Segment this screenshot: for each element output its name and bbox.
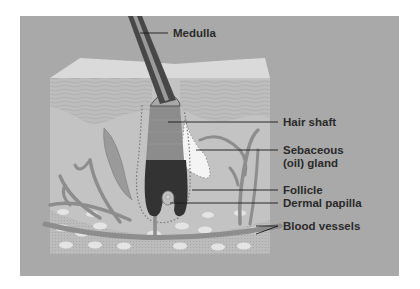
hair-follicle-illustration (0, 0, 420, 289)
hair-shaft-segment (146, 106, 184, 160)
label-sebaceous-line2: (oil) gland (283, 157, 338, 170)
label-medulla: Medulla (173, 27, 216, 40)
label-sebaceous-line1: Sebaceous (283, 144, 344, 157)
label-dermal-papilla: Dermal papilla (283, 197, 362, 210)
label-follicle: Follicle (283, 184, 323, 197)
label-blood-vessels: Blood vessels (283, 220, 360, 233)
label-hair-shaft: Hair shaft (283, 116, 336, 129)
